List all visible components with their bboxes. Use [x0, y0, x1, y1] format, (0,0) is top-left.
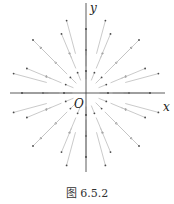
vector-arrow [62, 34, 72, 58]
vector-tip-dot [61, 33, 63, 35]
vector-tip-dot [94, 72, 96, 74]
figure-caption: 图 6.5.2 [0, 184, 174, 200]
vector-arrow [66, 98, 73, 101]
origin-label: O [74, 97, 84, 111]
vector-tip-dot [66, 20, 68, 22]
vector-tip-dot [144, 117, 146, 119]
vector-tip-dot [101, 77, 103, 79]
vector-tip-dot [105, 84, 107, 86]
vector-tip-dot [66, 165, 68, 167]
vector-tip-dot [110, 33, 112, 35]
vector-tip-dot [13, 73, 15, 75]
vector-tip-dot [77, 112, 79, 114]
vector-arrow [96, 77, 102, 83]
vector-arrow [101, 34, 111, 58]
vector-arrow [91, 73, 94, 80]
vector-tip-dot [105, 101, 107, 103]
vector-tip-dot [94, 112, 96, 114]
vector-tip-dot [26, 68, 28, 70]
vector-tip-dot [65, 101, 67, 103]
vector-arrow [96, 103, 102, 109]
vector-tip-dot [32, 39, 34, 41]
vector-tip-dot [26, 117, 28, 119]
vector-tip-dot [110, 151, 112, 153]
vector-field-diagram: x y O [0, 0, 174, 204]
vector-arrow [27, 108, 51, 118]
vector-arrow [33, 122, 57, 146]
vector-tip-dot [144, 68, 146, 70]
vector-tip-dot [65, 84, 67, 86]
vector-tip-dot [77, 72, 79, 74]
vector-arrow [99, 98, 106, 101]
vector-arrow [121, 108, 145, 118]
vector-arrow [115, 40, 139, 64]
vector-tip-dot [105, 165, 107, 167]
vector-tip-dot [105, 20, 107, 22]
x-axis-label: x [163, 100, 170, 114]
vector-arrow [78, 73, 81, 80]
vector-arrow [70, 77, 76, 83]
vector-tip-dot [138, 39, 140, 41]
vector-arrow [66, 85, 73, 88]
vector-arrow [27, 69, 51, 79]
y-axis-label: y [89, 1, 97, 15]
vector-arrow [62, 128, 72, 152]
vector-tip-dot [13, 112, 15, 114]
vector-tip-dot [70, 108, 72, 110]
vector-tip-dot [61, 151, 63, 153]
vector-arrow [121, 69, 145, 79]
vector-arrow [33, 40, 57, 64]
vector-arrow [115, 122, 139, 146]
vector-arrow [101, 128, 111, 152]
vector-tip-dot [101, 108, 103, 110]
vector-arrow [99, 85, 106, 88]
vector-tip-dot [32, 145, 34, 147]
vector-tip-dot [138, 145, 140, 147]
vector-tip-dot [158, 73, 160, 75]
vector-arrow [91, 106, 94, 113]
vector-tip-dot [70, 77, 72, 79]
vector-tip-dot [158, 112, 160, 114]
